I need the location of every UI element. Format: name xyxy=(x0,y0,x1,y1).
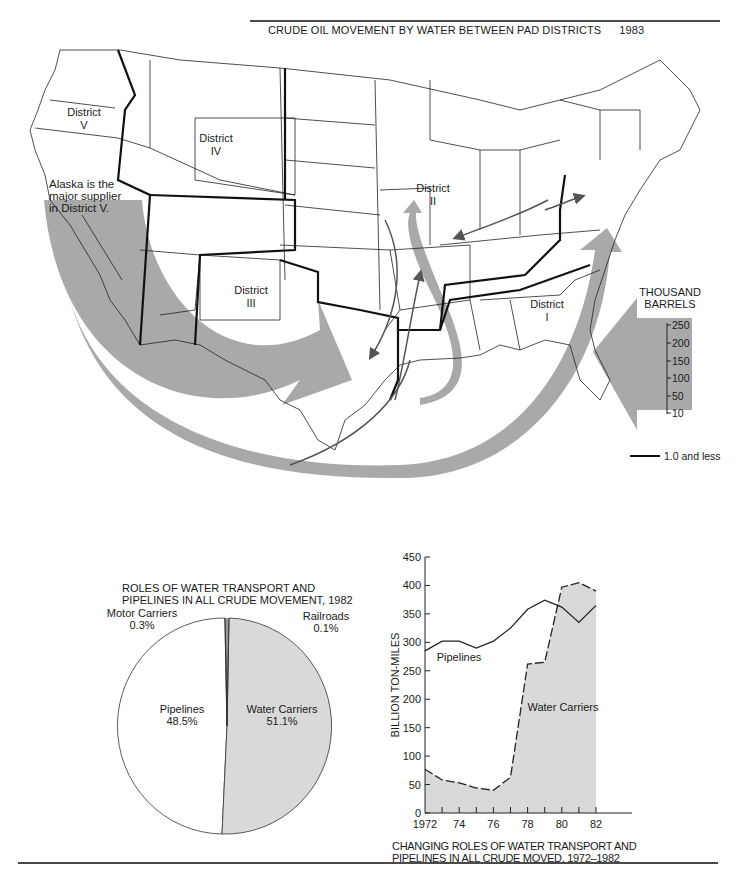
y-ticks: 050100150200250300350400450 xyxy=(403,551,430,819)
thin-arrow-1 xyxy=(458,200,548,237)
pie-title: ROLES OF WATER TRANSPORT AND PIPELINES I… xyxy=(122,582,353,606)
district-i-num: I xyxy=(545,311,548,323)
pipelines-line xyxy=(425,600,596,651)
pie-slice-motor-carriers xyxy=(225,618,227,726)
svg-text:50: 50 xyxy=(672,390,684,402)
pie-slice-railroads-b xyxy=(227,618,229,726)
district-v-num: V xyxy=(80,119,88,131)
us-map: District V District IV District III Dist… xyxy=(0,0,738,480)
bottom-rule xyxy=(18,862,718,864)
y-tick-label: 450 xyxy=(403,551,421,563)
svg-text:200: 200 xyxy=(672,337,690,349)
y-tick-label: 350 xyxy=(403,608,421,620)
pie-slice-water-carriers xyxy=(222,618,332,834)
annotation-line-3: in District V. xyxy=(49,202,109,214)
x-tick-label: 1972 xyxy=(413,818,437,830)
pie-label-railroads: Railroads xyxy=(303,610,350,622)
x-tick-label: 74 xyxy=(453,818,465,830)
water-carriers-line xyxy=(425,583,596,791)
legend-title-1: THOUSAND xyxy=(639,286,701,298)
legend-title-2: BARRELS xyxy=(644,298,695,310)
x-tick-label: 78 xyxy=(521,818,533,830)
y-axis-label: BILLION TON-MILES xyxy=(389,633,401,738)
thin-arrow-3 xyxy=(372,220,397,355)
district-iv-num: IV xyxy=(211,145,222,157)
svg-text:10: 10 xyxy=(672,407,684,419)
line-chart-title: CHANGING ROLES OF WATER TRANSPORT AND PI… xyxy=(392,840,636,864)
x-tick-label: 76 xyxy=(487,818,499,830)
pie-slice-pipelines xyxy=(117,618,227,834)
pie-title-line-2: PIPELINES IN ALL CRUDE MOVEMENT, 1982 xyxy=(122,594,353,606)
district-iii-num: III xyxy=(246,297,255,309)
district-v-label: District xyxy=(67,106,101,118)
y-tick-label: 200 xyxy=(403,693,421,705)
y-tick-label: 150 xyxy=(403,722,421,734)
y-tick-label: 0 xyxy=(415,807,421,819)
pie-labels: Motor Carriers 0.3% Railroads 0.1% Pipel… xyxy=(107,607,350,727)
annotation-line-2: major supplier xyxy=(49,190,121,202)
pie-label-motor-carriers: Motor Carriers xyxy=(107,607,178,619)
svg-text:150: 150 xyxy=(672,355,690,367)
district-ii-num: II xyxy=(430,195,436,207)
y-tick-label: 250 xyxy=(403,665,421,677)
pie-value-motor-carriers: 0.3% xyxy=(129,619,154,631)
pie-title-line-1: ROLES OF WATER TRANSPORT AND xyxy=(122,582,353,594)
district-i-label: District xyxy=(530,298,564,310)
district-iv-label: District xyxy=(199,132,233,144)
line-chart-title-line-1: CHANGING ROLES OF WATER TRANSPORT AND xyxy=(392,840,636,852)
series-label-pipelines: Pipelines xyxy=(437,651,482,663)
x-tick-label: 82 xyxy=(590,818,602,830)
pie-label-water-carriers: Water Carriers xyxy=(246,703,318,715)
pie-value-railroads: 0.1% xyxy=(313,622,338,634)
svg-text:100: 100 xyxy=(672,372,690,384)
district-iii-label: District xyxy=(234,284,268,296)
pie-value-water-carriers: 51.1% xyxy=(266,715,297,727)
y-tick-label: 50 xyxy=(409,779,421,791)
district-ii-label: District xyxy=(416,182,450,194)
x-ticks: 19727476788082 xyxy=(413,807,602,830)
pie-value-pipelines: 48.5% xyxy=(166,715,197,727)
x-tick-label: 80 xyxy=(556,818,568,830)
annotation-line-1: Alaska is the xyxy=(49,178,114,190)
legend-thin-line-label: 1.0 and less xyxy=(664,450,721,462)
pie-slices xyxy=(117,618,331,834)
y-tick-label: 100 xyxy=(403,750,421,762)
y-tick-label: 300 xyxy=(403,636,421,648)
water-carriers-area xyxy=(425,583,596,813)
pie-label-pipelines: Pipelines xyxy=(160,703,205,715)
y-tick-label: 400 xyxy=(403,579,421,591)
svg-text:250: 250 xyxy=(672,319,690,331)
series-label-water-carriers: Water Carriers xyxy=(527,701,599,713)
